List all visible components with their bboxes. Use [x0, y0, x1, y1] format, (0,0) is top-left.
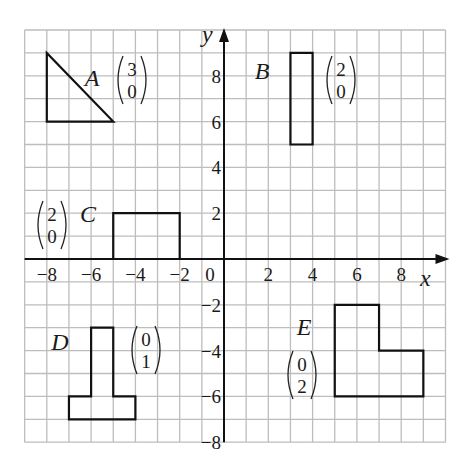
- y-tick-label: 8: [212, 66, 222, 87]
- shape-label: A: [83, 65, 100, 91]
- y-tick-label: −4: [201, 341, 222, 362]
- vector-top: 3: [127, 59, 137, 80]
- vector-bottom: 1: [141, 351, 151, 372]
- vector-bottom: 0: [336, 81, 346, 102]
- translation-vector: 20: [327, 56, 355, 104]
- y-tick-label: −6: [201, 386, 221, 407]
- shape-label: B: [255, 58, 270, 84]
- x-tick-label: −6: [81, 264, 101, 285]
- shape-label: D: [50, 329, 68, 355]
- vector-top: 2: [47, 204, 57, 225]
- shape-c: C20: [38, 201, 180, 259]
- right-paren-icon: [141, 56, 146, 104]
- shape-e: E02: [288, 305, 423, 399]
- translation-diagram: x y −8−6−4−2024688642−2−4−6−8 A30B20C20D…: [0, 0, 453, 459]
- y-tick-label: −2: [201, 295, 221, 316]
- grid-lines: [25, 30, 446, 442]
- x-tick-label: −8: [37, 264, 57, 285]
- right-paren-icon: [350, 56, 355, 104]
- vector-bottom: 0: [47, 226, 57, 247]
- y-tick-label: 2: [212, 203, 222, 224]
- left-paren-icon: [327, 56, 332, 104]
- left-paren-icon: [118, 56, 123, 104]
- x-tick-label: 4: [308, 264, 318, 285]
- y-axis-label: y: [200, 21, 213, 47]
- x-axis-arrow-icon: [436, 254, 450, 264]
- y-tick-label: 4: [212, 157, 222, 178]
- shape-d: D01: [50, 326, 160, 419]
- x-tick-label: −4: [125, 264, 146, 285]
- shape-a: A30: [47, 53, 146, 122]
- vector-top: 0: [297, 354, 307, 375]
- x-tick-label: 2: [264, 264, 274, 285]
- left-paren-icon: [38, 201, 43, 249]
- vector-bottom: 2: [297, 376, 307, 397]
- shape-label: E: [296, 314, 312, 340]
- y-tick-label: 6: [212, 112, 222, 133]
- x-tick-label: −2: [170, 264, 190, 285]
- x-tick-label: 0: [205, 264, 215, 285]
- translation-vector: 30: [118, 56, 146, 104]
- vector-top: 0: [141, 329, 151, 350]
- right-paren-icon: [311, 351, 316, 399]
- y-tick-label: −8: [201, 432, 221, 453]
- translation-vector: 02: [288, 351, 316, 399]
- right-paren-icon: [61, 201, 66, 249]
- x-axis-label: x: [419, 265, 431, 291]
- shape-label: C: [80, 201, 97, 227]
- vector-bottom: 0: [127, 81, 137, 102]
- vector-top: 2: [336, 59, 346, 80]
- x-tick-label: 8: [396, 264, 406, 285]
- translation-vector: 20: [38, 201, 66, 249]
- x-tick-label: 6: [352, 264, 362, 285]
- shape-a-outline: [47, 53, 113, 122]
